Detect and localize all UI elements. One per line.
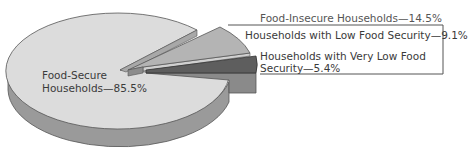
food-secure-label-line2: Households—85.5%: [42, 82, 147, 95]
low-food-security-label: Households with Low Food Security—9.1%: [245, 29, 468, 42]
food-insecure-label: Food-Insecure Households—14.5%: [260, 12, 442, 25]
food-secure-label-line1: Food-Secure: [42, 69, 107, 82]
very-low-food-security-label-line2: Security—5.4%: [260, 62, 340, 75]
